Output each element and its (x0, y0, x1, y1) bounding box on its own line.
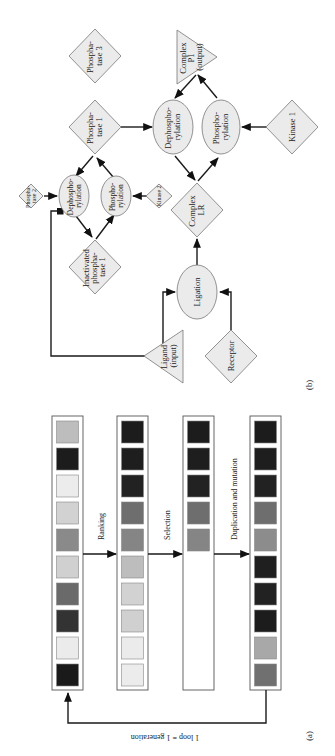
population-cell (122, 448, 144, 470)
svg-text:Phospho- rylation: Phospho- rylation (211, 110, 230, 144)
population-cell (57, 448, 79, 470)
population-cell (188, 448, 210, 470)
svg-text:Phospho- rylation: Phospho- rylation (108, 181, 125, 211)
population-cell (255, 502, 277, 524)
node-kinase-2: Kinase 2 (146, 184, 172, 208)
node-label: Receptor (226, 340, 236, 371)
node-label: tase 1 (97, 257, 107, 277)
svg-text:Kinase 1: Kinase 1 (287, 112, 297, 142)
population-cell (57, 502, 79, 524)
edge-lr-phos (198, 158, 218, 181)
population-cell (188, 529, 210, 551)
population-cell (57, 421, 79, 443)
population-cell (122, 610, 144, 632)
node-kinase-1: Kinase 1 (266, 100, 318, 154)
population-cell (255, 664, 277, 686)
population-cell (188, 502, 210, 524)
population-cell (255, 637, 277, 659)
node-dephosphorylation-small: Dephospho- rylation (59, 175, 89, 217)
population-cell (188, 475, 210, 497)
population-cell (57, 475, 79, 497)
node-label: tase 1 (94, 117, 104, 137)
node-phosphatase-1: Phospha- tase 1 (69, 100, 121, 154)
edge-dephos-small-inactivated (76, 216, 92, 237)
panel-a-label: (a) (304, 731, 314, 741)
node-label: tase 2 (31, 189, 37, 203)
population-cell (122, 421, 144, 443)
population-cell (57, 610, 79, 632)
node-label: rylation (74, 184, 83, 208)
loop-caption: 1 loop = 1 generation (131, 733, 200, 742)
node-label: Kinase 2 (156, 185, 162, 206)
node-phosphorylation-small: Phospho- rylation (101, 176, 131, 216)
node-label: rylation (172, 113, 182, 140)
node-phosphatase-2: Phospha- tase 2 (19, 184, 43, 208)
population-cell (255, 421, 277, 443)
generation-loop-arrow (68, 690, 266, 723)
node-receptor: Receptor (205, 330, 257, 383)
population-cell (255, 475, 277, 497)
edge-receptor-ligation (220, 292, 231, 330)
population-cell (122, 475, 144, 497)
node-label: (input) (168, 344, 178, 367)
panel-a-genetic-algorithm: Ranking Selection Duplication and mutati… (52, 416, 314, 742)
population-cell (57, 529, 79, 551)
population-cell (122, 529, 144, 551)
node-dephosphorylation-main: Dephospho- rylation (153, 100, 193, 154)
population-cell (255, 529, 277, 551)
population-cell (255, 583, 277, 605)
node-complex-p1-output: Complex P1 (output) (177, 30, 217, 84)
svg-text:Receptor: Receptor (226, 340, 236, 371)
population-cell (122, 637, 144, 659)
svg-text:Kinase 2: Kinase 2 (156, 185, 162, 206)
step-label-selection: Selection (163, 510, 172, 540)
step-label-duplication-mutation: Duplication and mutation (230, 458, 239, 540)
population-cell (122, 583, 144, 605)
node-label: Kinase 1 (287, 112, 297, 142)
node-inactivated-phosphatase-1: Inactivated phospha- tase 1 (69, 240, 121, 294)
svg-text:Ligand (input): Ligand (input) (159, 343, 178, 369)
step-label-ranking: Ranking (97, 513, 106, 540)
panel-b-network: Phospha- tase 3 Complex P1 (output) Phos… (19, 29, 318, 390)
edge-dephos-lr (175, 156, 195, 180)
node-complex-lr: Complex LR (171, 183, 223, 237)
edge-phos-p1 (198, 75, 217, 98)
figure-canvas: Phospha- tase 3 Complex P1 (output) Phos… (0, 0, 335, 756)
population-cell (122, 502, 144, 524)
panel-b-label: (b) (304, 380, 314, 390)
node-phosphorylation-main: Phospho- rylation (202, 100, 240, 154)
node-phosphatase-3: Phospha- tase 3 (69, 29, 121, 83)
population-cell (255, 556, 277, 578)
edge-inactivated-phos-small (96, 215, 114, 239)
population-cell (57, 664, 79, 686)
node-label: (output) (194, 43, 204, 71)
edge-phos-small-phosphatase1 (97, 158, 114, 178)
population-cell (255, 448, 277, 470)
population-cell (122, 556, 144, 578)
node-label: LR (196, 204, 206, 215)
population-cell (255, 610, 277, 632)
population-cell (57, 637, 79, 659)
node-label: rylation (116, 184, 125, 208)
population-cell (122, 664, 144, 686)
node-label: tase 3 (94, 46, 104, 66)
svg-text:Ligation: Ligation (192, 277, 202, 307)
population-cell (188, 421, 210, 443)
node-ligation: Ligation (177, 265, 217, 319)
node-label: Ligation (192, 277, 202, 307)
population-cell (57, 583, 79, 605)
edge-phosphatase1-dephos-small (76, 156, 93, 176)
population-cell (57, 556, 79, 578)
node-label: rylation (220, 113, 230, 140)
